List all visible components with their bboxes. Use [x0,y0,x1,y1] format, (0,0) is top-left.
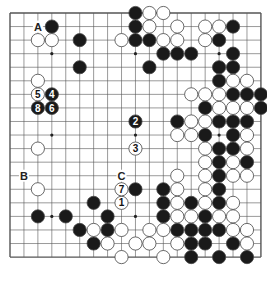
black-stone [129,20,142,33]
go-board: 12345678ABC [0,0,267,284]
black-stone [240,156,253,169]
black-stone [213,223,226,236]
black-stone [185,223,198,236]
star-point [50,215,53,218]
letter-label: B [20,170,28,182]
black-stone [199,237,212,250]
black-stone [101,223,114,236]
black-stone [199,223,212,236]
letter-label: A [34,21,42,33]
black-stone [129,6,142,19]
move-number-label: 8 [35,103,41,114]
black-stone [226,20,239,33]
black-stone [199,210,212,223]
white-stone [199,34,212,47]
white-stone [240,223,253,236]
black-stone [73,61,86,74]
black-stone [213,156,226,169]
white-stone [171,210,184,223]
black-stone [213,61,226,74]
move-number-label: 1 [119,197,125,208]
black-stone [31,210,44,223]
white-stone [213,88,226,101]
white-stone [185,115,198,128]
black-stone [101,210,114,223]
white-stone [101,237,114,250]
black-stone [157,183,170,196]
black-stone [226,88,239,101]
white-stone [199,169,212,182]
white-stone [213,20,226,33]
black-stone [171,115,184,128]
black-stone [226,237,239,250]
white-stone [240,101,253,114]
star-point [134,133,137,136]
white-stone [240,142,253,155]
black-stone [240,88,253,101]
white-stone [240,74,253,87]
white-stone [240,237,253,250]
black-stone [226,47,239,60]
black-stone [185,237,198,250]
white-stone [199,88,212,101]
star-point [134,52,137,55]
white-stone [213,101,226,114]
black-stone [87,196,100,209]
white-stone [31,74,44,87]
white-stone [199,196,212,209]
black-stone [254,88,267,101]
black-stone [213,196,226,209]
white-stone [143,20,156,33]
black-stone [213,183,226,196]
white-stone [199,115,212,128]
white-stone [226,74,239,87]
white-stone [185,128,198,141]
white-stone [129,237,142,250]
white-stone [143,223,156,236]
white-stone [171,196,184,209]
black-stone [185,250,198,263]
move-number-label: 7 [119,184,125,195]
white-stone [157,34,170,47]
black-stone [254,101,267,114]
white-stone [45,34,58,47]
black-stone [226,61,239,74]
black-stone [199,128,212,141]
black-stone [240,115,253,128]
white-stone [226,101,239,114]
black-stone [157,210,170,223]
white-stone [87,223,100,236]
white-stone [171,183,184,196]
star-point [134,215,137,218]
white-stone [240,169,253,182]
move-number-label: 6 [49,103,55,114]
black-stone [213,142,226,155]
white-stone [199,156,212,169]
white-stone [171,20,184,33]
white-stone [31,142,44,155]
black-stone [87,237,100,250]
white-stone [199,20,212,33]
white-stone [240,128,253,141]
black-stone [199,101,212,114]
black-stone [129,183,142,196]
black-stone [213,74,226,87]
move-number-label: 5 [35,89,41,100]
white-stone [171,34,184,47]
white-stone [199,183,212,196]
black-stone [226,115,239,128]
black-stone [143,61,156,74]
black-stone [213,250,226,263]
white-stone [31,183,44,196]
white-stone [226,196,239,209]
move-number-label: 3 [133,143,139,154]
star-point [218,52,221,55]
white-stone [143,237,156,250]
white-stone [157,6,170,19]
star-point [50,52,53,55]
black-stone [226,128,239,141]
white-stone [157,250,170,263]
white-stone [185,210,198,223]
white-stone [115,250,128,263]
star-point [50,133,53,136]
